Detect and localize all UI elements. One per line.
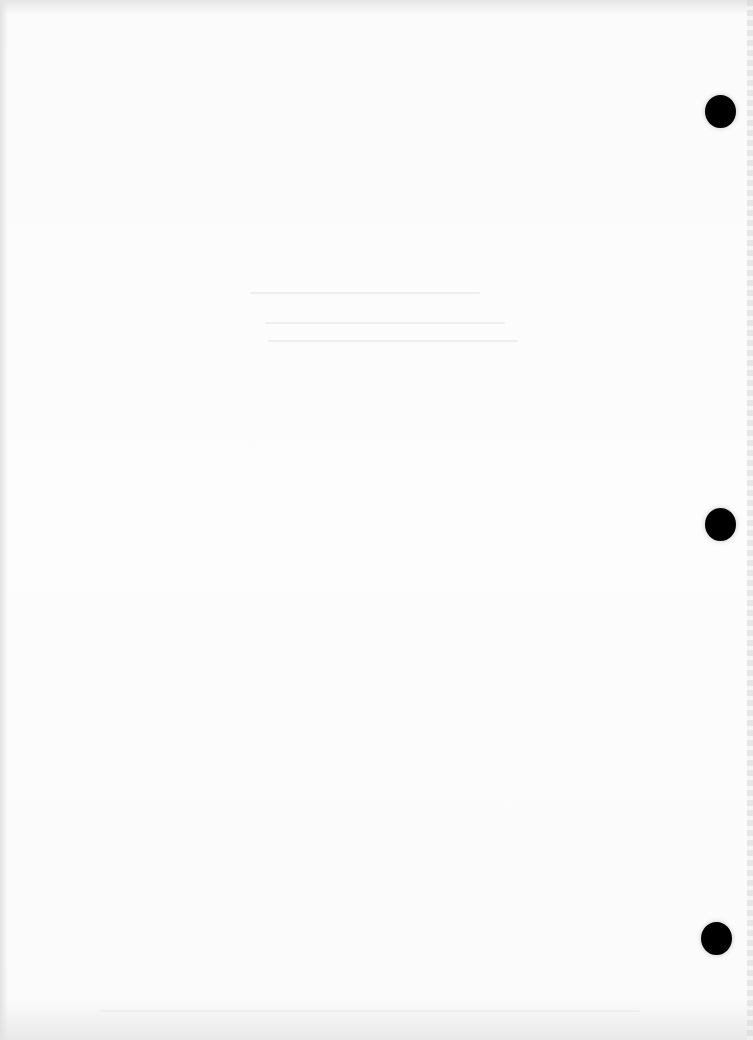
bleed-through-line bbox=[268, 340, 518, 342]
binder-hole-bottom bbox=[701, 922, 732, 955]
binder-hole-middle bbox=[705, 508, 736, 541]
page-edge-right bbox=[747, 0, 753, 1040]
page-edge-left bbox=[0, 0, 8, 1040]
scanned-page bbox=[0, 0, 753, 1040]
bleed-through-line bbox=[100, 1010, 640, 1012]
bleed-through-line bbox=[265, 322, 505, 324]
bleed-through-line bbox=[250, 292, 480, 294]
binder-hole-top bbox=[705, 95, 736, 128]
